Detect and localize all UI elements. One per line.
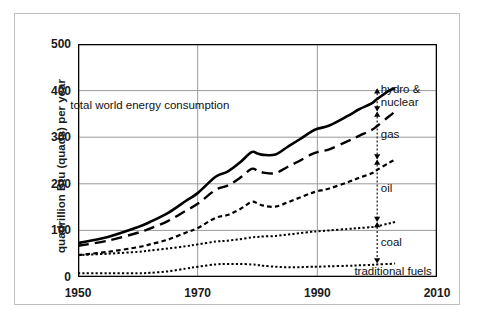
series-line [78,263,395,273]
x-tick-label: 1990 [304,286,331,300]
hydro-nuclear-label-line-1: hydro & [381,83,421,96]
series-line [78,160,395,256]
x-tick-label: 2010 [424,286,451,300]
series-line [78,88,395,243]
x-tick-label: 1950 [65,286,92,300]
y-tick-label: 100 [51,223,71,237]
y-tick-label: 500 [51,37,71,51]
traditional-fuels-label: traditional fuels [354,265,431,278]
y-tick-label: 200 [51,177,71,191]
chart-page: quadrillion Btu (quads) per year 0100200… [0,0,479,322]
x-tick-label: 1970 [184,286,211,300]
hydro-nuclear-label-line-2: nuclear [381,96,421,109]
coal-arrow [374,222,380,263]
oil-label: oil [381,182,393,195]
y-tick-label: 300 [51,130,71,144]
y-tick-label: 400 [51,84,71,98]
gas-arrow [374,112,380,160]
total-consumption-label: total world energy consumption [70,98,229,111]
coal-label: coal [381,235,402,248]
y-tick-label: 0 [64,270,71,284]
gas-label: gas [381,128,400,141]
series-line [78,112,395,246]
hydro-nuclear-label: hydro &nuclear [381,83,421,109]
plot-area: quadrillion Btu (quads) per year 0100200… [78,44,437,277]
